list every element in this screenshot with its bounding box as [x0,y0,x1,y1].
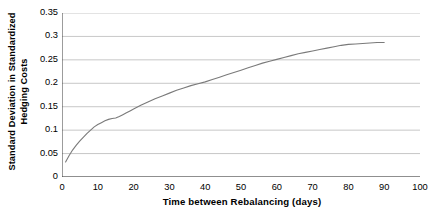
x-axis-tick-label: 20 [119,181,149,193]
x-axis-tick-label: 70 [298,181,328,193]
y-axis-tick-label: 0.35 [32,8,58,17]
x-axis-tick-label: 30 [154,181,184,193]
gridlines [62,13,420,177]
chart-figure: Standard Deviation in Standardized Hedgi… [0,0,434,220]
plot-area [62,13,420,177]
x-axis-tick-label: 80 [333,181,363,193]
x-axis-title: Time between Rebalancing (days) [62,196,422,207]
y-axis-title-line-1: Standard Deviation in Standardized [7,12,19,170]
x-axis-tick-label: 60 [262,181,292,193]
y-axis-tick-label: 0.2 [32,79,58,88]
x-axis-tick-label: 10 [83,181,113,193]
x-axis-tick-labels: 0102030405060708090100 [0,181,434,195]
x-axis-tick-label: 100 [405,181,434,193]
y-axis-tick-labels: 00.050.10.150.20.250.30.35 [30,0,58,182]
y-axis-title-text: Standard Deviation in Standardized Hedgi… [7,12,30,170]
y-axis-tick-label: 0.15 [32,102,58,111]
x-axis-tick-label: 50 [226,181,256,193]
y-axis-tick-label: 0.25 [32,55,58,64]
x-axis-tick-label: 40 [190,181,220,193]
plot-svg [62,13,420,177]
x-axis-tick-label: 0 [47,181,77,193]
y-axis-title-line-2: Hedging Costs [18,12,30,170]
x-axis-tick-label: 90 [369,181,399,193]
y-axis-tick-label: 0.3 [32,32,58,41]
y-axis-tick-label: 0.1 [32,125,58,134]
y-axis-tick-label: 0.05 [32,149,58,158]
data-line-series-1 [66,43,385,162]
